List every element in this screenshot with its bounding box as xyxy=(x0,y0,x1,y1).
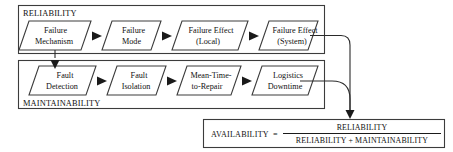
node-label-line2: Downtime xyxy=(268,82,303,91)
node-label-line2: (Local) xyxy=(196,37,220,46)
node-label-line1: Failure Effect xyxy=(272,26,318,35)
node-fault-isolation[interactable]: Fault Isolation xyxy=(107,66,166,95)
formula-box: AVAILABILITY = RELIABILITY RELIABILITY +… xyxy=(204,120,445,148)
node-label-line1: Failure xyxy=(122,26,146,35)
arrow-mode-to-effect-local xyxy=(162,32,172,41)
formula-denominator: RELIABILITY + MAINTAINABILITY xyxy=(296,136,428,145)
group-label-reliability: RELIABILITY xyxy=(23,9,77,18)
arrow-isolation-to-mttr xyxy=(167,77,177,86)
node-failure-mode[interactable]: Failure Mode xyxy=(102,21,161,50)
node-label-line1: Fault xyxy=(131,71,149,80)
formula-left-term: AVAILABILITY xyxy=(211,130,269,139)
node-label-line2: (System) xyxy=(277,37,307,46)
node-failure-mechanism[interactable]: Failure Mechanism xyxy=(19,21,91,50)
node-label-line1: Mean-Time- xyxy=(190,71,231,80)
arrow-effect-local-to-system xyxy=(249,32,259,41)
arrow-mechanism-to-mode xyxy=(92,32,102,41)
formula-numerator: RELIABILITY xyxy=(337,123,388,132)
node-label-line1: Failure xyxy=(44,26,68,35)
node-label-line2: Mechanism xyxy=(35,37,74,46)
formula-equals-sign: = xyxy=(273,130,278,139)
node-label-line1: Failure Effect xyxy=(188,26,234,35)
node-label-line2: Detection xyxy=(46,82,78,91)
node-label-line2: Mode xyxy=(122,37,141,46)
node-label-line2: Isolation xyxy=(122,82,151,91)
node-label-line1: Fault xyxy=(57,71,75,80)
node-label-line2: to-Repair xyxy=(192,82,223,91)
node-label-line1: Logistics xyxy=(273,71,303,80)
diagram-canvas: RELIABILITY Failure Mechanism Failure Mo… xyxy=(0,0,453,152)
node-failure-effect-system[interactable]: Failure Effect (System) xyxy=(259,21,318,50)
node-mean-time-to-repair[interactable]: Mean-Time- to-Repair xyxy=(177,66,241,95)
connector-reliability-to-availability xyxy=(310,36,350,116)
node-fault-detection[interactable]: Fault Detection xyxy=(29,66,96,95)
arrow-detection-to-isolation xyxy=(97,77,107,86)
group-label-maintainability: MAINTAINABILITY xyxy=(23,99,100,108)
arrow-mttr-to-logistics xyxy=(242,77,252,86)
node-failure-effect-local[interactable]: Failure Effect (Local) xyxy=(172,21,248,50)
